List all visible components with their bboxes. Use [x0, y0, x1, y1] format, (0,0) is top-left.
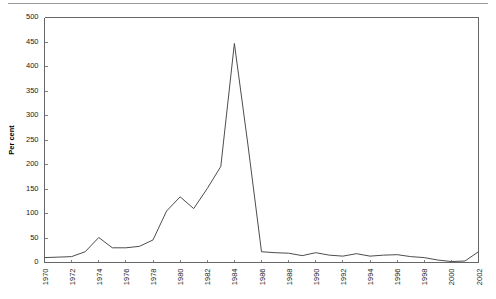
x-tick-label: 1982 — [203, 269, 212, 286]
x-tick-label: 1994 — [366, 269, 375, 286]
x-tick-label: 1986 — [258, 269, 267, 286]
x-tick-label: 1972 — [68, 269, 77, 286]
y-tick-label: 450 — [26, 37, 39, 46]
x-tick-label: 1984 — [230, 269, 239, 286]
x-tick-label: 1980 — [176, 269, 185, 286]
x-axis-tick-labels: 1970197219741976197819801982198419861988… — [41, 269, 484, 286]
x-tick-label: 1970 — [41, 269, 50, 286]
y-tick-label: 350 — [26, 86, 39, 95]
y-tick-label: 0 — [34, 257, 38, 266]
x-tick-label: 2000 — [447, 269, 456, 286]
x-tick-label: 1988 — [285, 269, 294, 286]
x-tick-label: 1990 — [312, 269, 321, 286]
y-tick-label: 200 — [26, 159, 39, 168]
y-axis-tick-labels: 050100150200250300350400450500 — [26, 12, 39, 266]
x-tick-label: 1976 — [122, 269, 131, 286]
x-tick-label: 1992 — [339, 269, 348, 286]
y-tick-label: 250 — [26, 135, 39, 144]
x-tick-label: 1996 — [393, 269, 402, 286]
x-tick-label: 1978 — [149, 269, 158, 286]
y-axis-title: Per cent — [7, 125, 16, 155]
x-tick-label: 2002 — [475, 269, 484, 286]
y-tick-label: 500 — [26, 12, 39, 21]
line-chart: 050100150200250300350400450500 197019721… — [0, 0, 496, 299]
y-tick-label: 50 — [30, 233, 38, 242]
x-tick-label: 1998 — [420, 269, 429, 286]
x-tick-label: 1974 — [95, 269, 104, 286]
y-tick-label: 300 — [26, 110, 39, 119]
y-tick-label: 400 — [26, 61, 39, 70]
y-tick-label: 150 — [26, 184, 39, 193]
y-tick-label: 100 — [26, 208, 39, 217]
data-series-line — [45, 43, 479, 261]
chart-figure: 050100150200250300350400450500 197019721… — [0, 0, 496, 299]
